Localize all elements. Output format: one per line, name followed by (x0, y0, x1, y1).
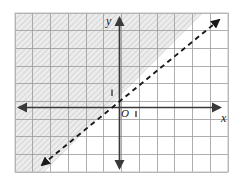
y-axis-label: y (106, 15, 111, 27)
x-axis-label: x (221, 112, 226, 124)
origin-label: O (121, 108, 129, 119)
graph-canvas (0, 0, 240, 185)
coordinate-plane-figure: y x O (0, 0, 240, 185)
